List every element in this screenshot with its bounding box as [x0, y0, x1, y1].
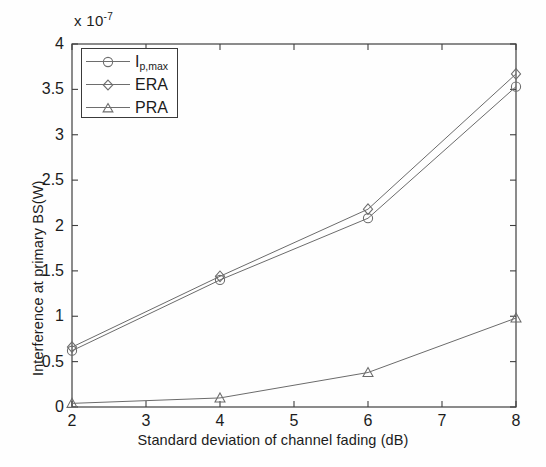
legend-label-ipmax: Ip,max	[135, 54, 168, 70]
series-line-PRA	[72, 318, 516, 403]
triangle-marker-icon	[102, 101, 115, 114]
diamond-marker-icon	[102, 78, 115, 91]
legend-label-pra: PRA	[135, 100, 168, 116]
legend-sample-diamond	[85, 75, 131, 95]
legend-item-pra[interactable]: PRA	[82, 96, 179, 119]
legend-item-ipmax[interactable]: Ip,max	[82, 50, 179, 73]
series-line-I_p,max	[72, 87, 516, 351]
legend-sample-circle	[85, 52, 131, 72]
legend-item-era[interactable]: ERA	[82, 73, 179, 96]
legend: Ip,max ERA PRA	[81, 48, 178, 118]
legend-sample-triangle	[85, 98, 131, 118]
figure-canvas: x 10-7 Interference at primary BS(W) Sta…	[0, 0, 546, 467]
circle-marker-icon	[102, 55, 115, 68]
legend-label-era: ERA	[135, 77, 168, 93]
